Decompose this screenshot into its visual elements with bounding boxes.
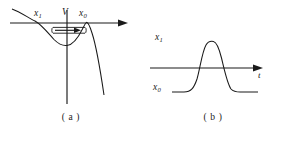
label-x1-panel-a: x1	[34, 9, 42, 19]
label-x1-panel-b: x1	[155, 33, 163, 43]
label-x0-panel-b: x0	[153, 83, 161, 93]
caption-panel-a: ( a )	[0, 112, 142, 122]
potential-curve-a	[12, 9, 104, 95]
caption-panel-b: ( b )	[142, 112, 284, 122]
panel-a: x1 V x0 ( a )	[0, 0, 142, 142]
label-v-panel-a: V	[62, 8, 68, 18]
label-x0-panel-a: x0	[79, 9, 87, 19]
label-t-panel-b: t	[258, 71, 261, 80]
figure-root: x1 V x0 ( a ) x1 x0 t ( b )	[0, 0, 284, 142]
panel-b: x1 x0 t ( b )	[142, 0, 284, 142]
escape-arrow-head-a	[74, 28, 81, 33]
bounce-trajectory-curve-b	[172, 41, 258, 92]
x-axis-arrowhead-a	[118, 20, 128, 27]
